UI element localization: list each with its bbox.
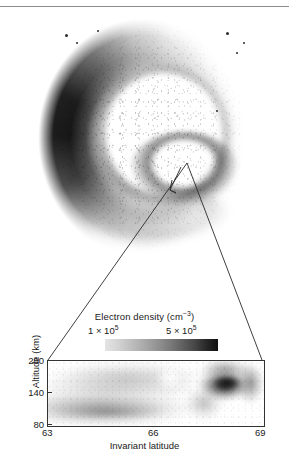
colorbar-min-exponent: 5	[115, 324, 119, 331]
aurora-oval-image	[30, 12, 262, 262]
colorbar-gradient-bar	[105, 339, 218, 351]
colorbar-min-label: 1 × 105	[88, 324, 118, 336]
x-tick-label-63: 63	[42, 427, 53, 438]
image-speck	[97, 30, 99, 32]
y-tick-200	[47, 360, 52, 361]
image-speck	[226, 32, 229, 35]
y-axis-title: Altitude (km)	[30, 322, 41, 402]
colorbar-max-label: 5 × 105	[166, 324, 196, 336]
top-divider-rule	[0, 6, 289, 7]
y-tick-80	[47, 424, 52, 425]
x-axis-title: Invariant latitude	[0, 440, 289, 451]
figure-root: Electron density (cm−3) 1 × 105 5 × 105 …	[0, 0, 289, 461]
colorbar-title: Electron density (cm−3)	[0, 310, 289, 322]
panel-grain-noise	[48, 361, 264, 426]
image-speck	[236, 52, 238, 54]
image-speck	[65, 34, 68, 37]
colorbar-max-mantissa: 5 × 10	[166, 325, 193, 336]
x-tick-label-66: 66	[148, 427, 159, 438]
altitude-latitude-heatmap	[47, 360, 265, 427]
aurora-speckle-noise	[30, 12, 262, 262]
y-tick-label-80: 80	[0, 419, 44, 430]
colorbar-min-mantissa: 1 × 10	[88, 325, 115, 336]
colorbar-title-exponent: −3	[183, 310, 191, 317]
colorbar-group: Electron density (cm−3) 1 × 105 5 × 105	[0, 310, 289, 352]
image-speck	[76, 42, 78, 44]
x-tick-label-69: 69	[255, 427, 266, 438]
image-speck	[243, 42, 245, 44]
colorbar-max-exponent: 5	[193, 324, 197, 331]
image-speck	[216, 110, 218, 112]
colorbar-title-close: )	[191, 311, 194, 322]
colorbar-title-text: Electron density (cm	[95, 311, 183, 322]
y-tick-140	[47, 392, 52, 393]
